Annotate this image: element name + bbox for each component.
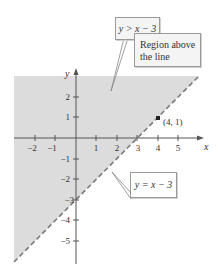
x-axis-arrow-icon xyxy=(197,136,204,141)
x-tick-label: 2 xyxy=(115,143,120,153)
test-point-label: (4, 1) xyxy=(163,117,183,127)
x-tick-label: −2 xyxy=(27,143,37,153)
x-tick-label: −1 xyxy=(47,143,57,153)
x-tick-label: 5 xyxy=(176,143,181,153)
region-note-line2: the line xyxy=(140,51,200,63)
region-note-callout: Region above the line xyxy=(134,33,201,67)
y-tick-label: −1 xyxy=(60,154,70,164)
y-tick-label: −5 xyxy=(60,236,70,246)
x-tick-label: 3 xyxy=(136,143,141,153)
boundary-callout: y = x − 3 xyxy=(130,172,177,198)
x-axis-label: x xyxy=(203,141,209,152)
boundary-callout-pointer xyxy=(112,172,131,199)
y-tick-label: −3 xyxy=(64,195,74,205)
y-axis-arrow-icon xyxy=(74,68,79,75)
y-tick-label: 1 xyxy=(66,112,71,122)
y-axis-label: y xyxy=(64,68,70,79)
y-tick-label: 2 xyxy=(66,92,71,102)
region-note-line1: Region above xyxy=(140,39,200,51)
y-tick-label: −4 xyxy=(60,215,70,225)
boundary-equation-text: y = x − 3 xyxy=(135,179,172,190)
x-tick-label: 1 xyxy=(94,143,99,153)
y-tick-label: −2 xyxy=(60,174,70,184)
x-tick-label: 4 xyxy=(156,143,161,153)
test-point-marker xyxy=(156,116,160,120)
